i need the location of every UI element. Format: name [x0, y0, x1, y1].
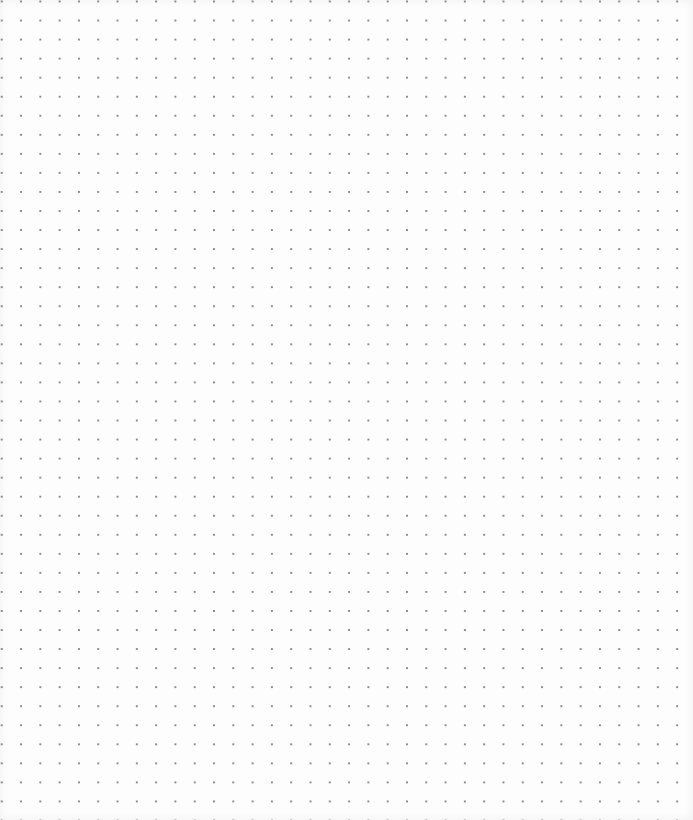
- dot-grid-canvas[interactable]: [0, 0, 693, 820]
